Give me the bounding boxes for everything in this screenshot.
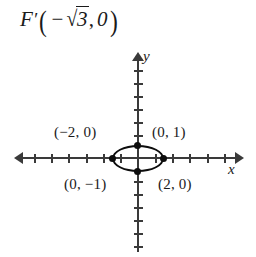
- point-label-right-vertex: (2, 0): [158, 176, 192, 193]
- y-axis-tick: [134, 96, 143, 98]
- focus-point-label: F′(−√3,0): [20, 6, 120, 32]
- vertex-marker-bottom: [134, 168, 141, 175]
- square-root-expression: √3: [65, 6, 89, 32]
- vertex-marker-right: [160, 155, 167, 162]
- x-axis-tick: [224, 154, 226, 163]
- y-axis-tick: [134, 194, 143, 196]
- x-axis-tick: [189, 154, 191, 163]
- y-axis-tick: [134, 246, 143, 248]
- coordinate-comma: ,: [89, 7, 94, 31]
- arrow-right-icon: [235, 152, 244, 164]
- y-axis-tick: [134, 83, 143, 85]
- x-axis-tick: [86, 154, 88, 163]
- x-axis-tick: [68, 154, 70, 163]
- minus-sign: −: [52, 7, 64, 31]
- radical-sign-icon: √: [66, 6, 77, 32]
- y-axis-tick: [134, 122, 143, 124]
- x-axis-tick: [34, 154, 36, 163]
- y-axis-tick: [134, 70, 143, 72]
- y-axis-tick: [134, 207, 143, 209]
- y-axis-tick: [134, 220, 143, 222]
- x-axis-label: x: [228, 161, 235, 178]
- y-axis-tick: [134, 135, 143, 137]
- x-axis-tick: [103, 154, 105, 163]
- y-axis-tick: [134, 181, 143, 183]
- focus-prime-mark: ′: [33, 9, 37, 30]
- ellipse-figure: F′(−√3,0) x y (−2, 0) (0, 1) (0, −1) (2,…: [0, 0, 256, 257]
- focus-function-letter: F: [20, 7, 33, 31]
- focus-y-coordinate: 0: [97, 7, 108, 31]
- arrow-left-icon: [14, 152, 23, 164]
- y-axis-label: y: [143, 48, 150, 65]
- x-axis-tick: [51, 154, 53, 163]
- point-label-top-vertex: (0, 1): [152, 124, 186, 141]
- y-axis-tick: [134, 233, 143, 235]
- x-axis-tick: [207, 154, 209, 163]
- vertex-marker-left: [109, 155, 116, 162]
- x-axis-tick: [172, 154, 174, 163]
- y-axis-tick: [134, 109, 143, 111]
- radicand-value: 3: [76, 6, 89, 32]
- point-label-left-vertex: (−2, 0): [54, 124, 96, 141]
- point-label-bottom-vertex: (0, −1): [64, 176, 106, 193]
- vertex-marker-top: [134, 142, 141, 149]
